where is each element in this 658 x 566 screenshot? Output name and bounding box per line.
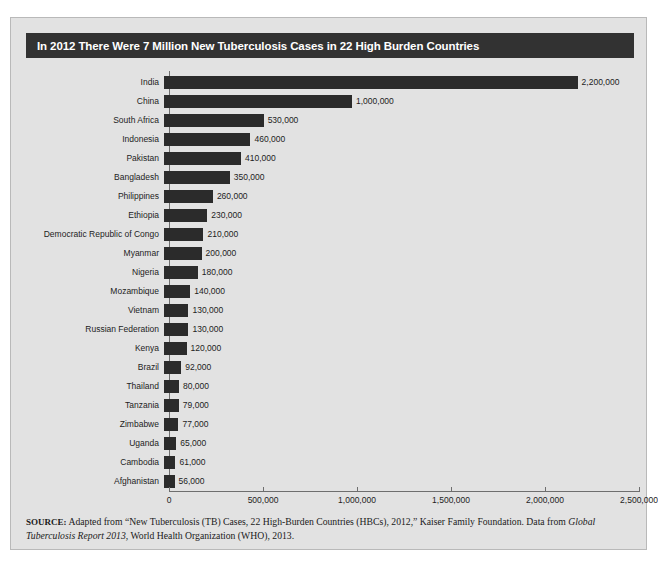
chart-title-bar: In 2012 There Were 7 Million New Tubercu…	[26, 33, 634, 58]
source-label: SOURCE:	[26, 517, 67, 527]
bar-track: 230,000	[164, 206, 634, 225]
bar-category-label: Indonesia	[26, 130, 164, 149]
chart-figure: In 2012 There Were 7 Million New Tubercu…	[10, 17, 647, 550]
bar-category-label: Vietnam	[26, 301, 164, 320]
bar	[164, 76, 578, 89]
source-note: SOURCE: Adapted from “New Tuberculosis (…	[26, 515, 634, 542]
bar-value-label: 230,000	[211, 206, 242, 225]
bar-track: 80,000	[164, 377, 634, 396]
bar-track: 77,000	[164, 415, 634, 434]
bar-value-label: 350,000	[234, 168, 265, 187]
bar-track: 1,000,000	[164, 92, 634, 111]
bar-row: Afghanistan56,000	[26, 472, 634, 491]
bar	[164, 361, 181, 374]
bar-track: 61,000	[164, 453, 634, 472]
bar-value-label: 120,000	[191, 339, 222, 358]
bar-track: 130,000	[164, 320, 634, 339]
bar	[164, 342, 187, 355]
bar	[164, 228, 203, 241]
bar-category-label: Afghanistan	[26, 472, 164, 491]
bar-category-label: Mozambique	[26, 282, 164, 301]
bar-category-label: Tanzania	[26, 396, 164, 415]
bar	[164, 418, 178, 431]
bar-value-label: 180,000	[202, 263, 233, 282]
bar-row: Zimbabwe77,000	[26, 415, 634, 434]
x-axis-tick-label: 2,500,000	[620, 495, 658, 505]
bar-value-label: 200,000	[206, 244, 237, 263]
bar-value-label: 140,000	[194, 282, 225, 301]
bar	[164, 247, 202, 260]
bar	[164, 437, 176, 450]
bar-value-label: 61,000	[179, 453, 205, 472]
bar-row: Kenya120,000	[26, 339, 634, 358]
bar-value-label: 460,000	[254, 130, 285, 149]
x-axis-tick-label: 1,000,000	[338, 495, 376, 505]
x-axis-tick-label: 0	[167, 495, 172, 505]
bar-category-label: Bangladesh	[26, 168, 164, 187]
x-axis-tick-label: 500,000	[248, 495, 279, 505]
bar-row: Brazil92,000	[26, 358, 634, 377]
bar-row: Uganda65,000	[26, 434, 634, 453]
bar-value-label: 77,000	[182, 415, 208, 434]
bar-row: Russian Federation130,000	[26, 320, 634, 339]
bar-row: Democratic Republic of Congo210,000	[26, 225, 634, 244]
bar-row: Thailand80,000	[26, 377, 634, 396]
bar-rows: India2,200,000China1,000,000South Africa…	[26, 73, 634, 491]
bar-row: Ethiopia230,000	[26, 206, 634, 225]
source-text-2: , World Health Organization (WHO), 2013.	[126, 530, 294, 541]
bar-value-label: 79,000	[183, 396, 209, 415]
bar	[164, 456, 175, 469]
bar-track: 180,000	[164, 263, 634, 282]
bar-category-label: Philippines	[26, 187, 164, 206]
x-axis-tick	[451, 487, 452, 492]
bar-value-label: 130,000	[192, 301, 223, 320]
bar-row: Mozambique140,000	[26, 282, 634, 301]
bar-row: Myanmar200,000	[26, 244, 634, 263]
bar-value-label: 2,200,000	[582, 73, 620, 92]
bar	[164, 266, 198, 279]
bar-track: 260,000	[164, 187, 634, 206]
bar-row: Vietnam130,000	[26, 301, 634, 320]
bar	[164, 399, 179, 412]
bar-value-label: 530,000	[268, 111, 299, 130]
plot-area: India2,200,000China1,000,000South Africa…	[26, 63, 634, 506]
bar-category-label: China	[26, 92, 164, 111]
bar-row: Nigeria180,000	[26, 263, 634, 282]
bar-track: 56,000	[164, 472, 634, 491]
bar	[164, 171, 230, 184]
bar-category-label: Pakistan	[26, 149, 164, 168]
bar-value-label: 56,000	[179, 472, 205, 491]
bar-row: Indonesia460,000	[26, 130, 634, 149]
bar-category-label: Nigeria	[26, 263, 164, 282]
bar-track: 79,000	[164, 396, 634, 415]
bar-row: Philippines260,000	[26, 187, 634, 206]
bar-row: India2,200,000	[26, 73, 634, 92]
bar	[164, 209, 207, 222]
bar-row: Tanzania79,000	[26, 396, 634, 415]
bar-value-label: 130,000	[192, 320, 223, 339]
bar-category-label: Kenya	[26, 339, 164, 358]
bar-value-label: 210,000	[207, 225, 238, 244]
bar-row: Pakistan410,000	[26, 149, 634, 168]
bar	[164, 114, 264, 127]
bar-track: 210,000	[164, 225, 634, 244]
bar	[164, 323, 188, 336]
bar-track: 460,000	[164, 130, 634, 149]
bar-category-label: Uganda	[26, 434, 164, 453]
bar-category-label: Thailand	[26, 377, 164, 396]
bar-track: 350,000	[164, 168, 634, 187]
bar	[164, 304, 188, 317]
bar-category-label: South Africa	[26, 111, 164, 130]
x-axis-tick-label: 1,500,000	[432, 495, 470, 505]
bar-row: South Africa530,000	[26, 111, 634, 130]
bar-value-label: 65,000	[180, 434, 206, 453]
bar-category-label: India	[26, 73, 164, 92]
bar-category-label: Russian Federation	[26, 320, 164, 339]
x-axis-tick	[169, 487, 170, 492]
bar-value-label: 410,000	[245, 149, 276, 168]
bar-track: 130,000	[164, 301, 634, 320]
bar-value-label: 1,000,000	[356, 92, 394, 111]
bar-track: 410,000	[164, 149, 634, 168]
bar-track: 530,000	[164, 111, 634, 130]
bar-value-label: 260,000	[217, 187, 248, 206]
